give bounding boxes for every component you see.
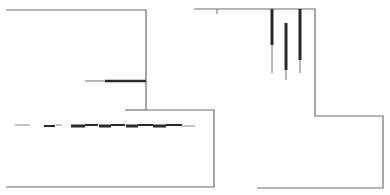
dashed-band <box>15 125 195 126</box>
right-panel-border <box>194 9 383 188</box>
left-panel-outline <box>6 10 214 187</box>
line-diagram <box>0 0 390 195</box>
horizontal-traces <box>85 81 146 110</box>
vertical-traces <box>272 9 300 80</box>
right-panel-outline <box>194 9 383 188</box>
diagram-canvas <box>0 0 390 195</box>
left-panel-border <box>6 10 214 187</box>
